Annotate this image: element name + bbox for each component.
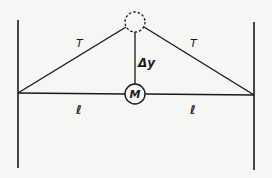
mass-label: M bbox=[130, 88, 141, 101]
tension-label-left: T bbox=[76, 37, 84, 50]
displacement-label: Δy bbox=[137, 56, 156, 70]
string-left-segment bbox=[18, 93, 125, 94]
string-right-segment bbox=[145, 94, 254, 95]
displaced-mass-circle bbox=[125, 12, 145, 32]
string-mass-diagram: T T Δy M ℓ ℓ bbox=[0, 0, 272, 178]
tension-line-left bbox=[18, 27, 126, 93]
tension-label-right: T bbox=[190, 37, 198, 50]
tension-line-right bbox=[144, 27, 254, 95]
length-label-right: ℓ bbox=[189, 103, 196, 117]
diagram-svg: T T Δy M ℓ ℓ bbox=[0, 0, 272, 178]
length-label-left: ℓ bbox=[75, 103, 82, 117]
